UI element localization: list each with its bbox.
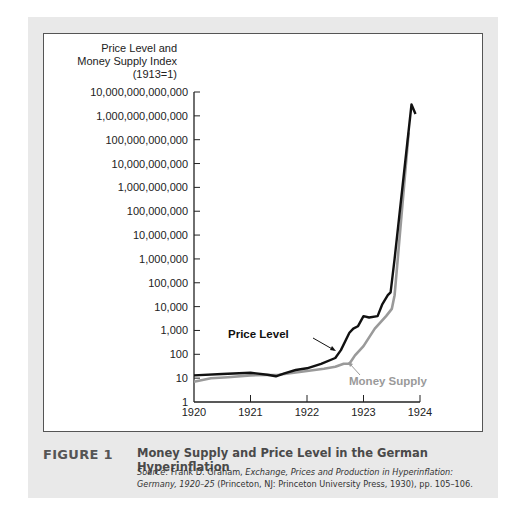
x-tick-label: 1921 xyxy=(238,406,262,418)
y-tick-label: 10,000,000,000 xyxy=(112,158,188,170)
y-tick-label: 10,000,000,000,000 xyxy=(90,86,188,98)
x-tick-label: 1922 xyxy=(295,406,319,418)
x-tick-label: 1923 xyxy=(351,406,375,418)
axes: 1101001,00010,000100,0001,000,00010,000,… xyxy=(90,86,432,418)
figure-label: FIGURE 1 xyxy=(43,447,113,462)
y-tick-label: 100,000,000 xyxy=(127,205,188,217)
annotations: Price LevelMoney Supply xyxy=(228,328,428,387)
x-tick-label: 1920 xyxy=(182,406,206,418)
source-author: : Frank D. Graham, xyxy=(165,467,245,477)
figure-source: Source: Frank D. Graham, Exchange, Price… xyxy=(137,466,487,490)
y-tick-label: 1,000 xyxy=(160,324,188,336)
source-rest: (Princeton, NJ: Princeton University Pre… xyxy=(215,479,473,489)
x-tick-label: 1924 xyxy=(408,406,432,418)
y-tick-label: 1,000,000,000 xyxy=(118,181,188,193)
y-tick-label: 10,000,000 xyxy=(133,229,188,241)
money-supply-line xyxy=(194,133,409,382)
source-prefix: Source xyxy=(137,467,165,477)
y-tick-label: 10,000 xyxy=(154,301,188,313)
price-level-label: Price Level xyxy=(228,328,289,340)
y-tick-label: 1,000,000,000,000 xyxy=(96,110,188,122)
series-lines xyxy=(194,105,416,382)
money-supply-label: Money Supply xyxy=(349,375,428,387)
y-tick-label: 1,000,000 xyxy=(139,253,188,265)
line-chart: 1101001,00010,000100,0001,000,00010,000,… xyxy=(0,0,516,516)
y-tick-label: 100,000 xyxy=(148,277,188,289)
y-tick-label: 10 xyxy=(176,372,188,384)
y-tick-label: 100,000,000,000 xyxy=(105,134,188,146)
y-tick-label: 100 xyxy=(170,348,188,360)
